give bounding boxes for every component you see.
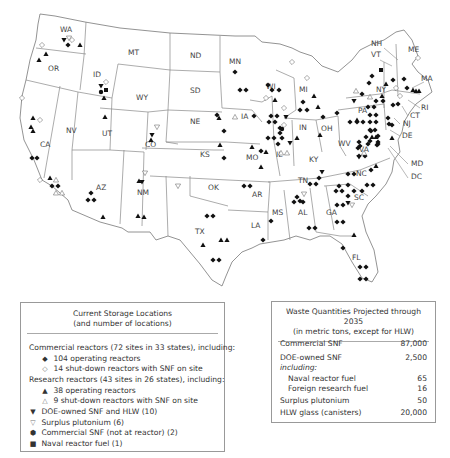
quantities-title: Waste Quantities Projected through 2035 … [278,302,429,342]
state-label-mi: MI [299,85,308,94]
state-label-ar: AR [252,190,262,199]
filled-down-triangle-icon: ▼ [27,407,39,417]
legend-item-commercial-snf: ⬢ Commercial SNF (not at reactor) (2) [27,428,178,438]
table-row: HLW glass (canisters) 20,000 [280,408,427,418]
filled-hexagon-icon: ⬢ [27,428,39,438]
state-label-mo: MO [246,153,258,162]
state-label-tn: TN [297,176,308,185]
state-label-az: AZ [96,183,106,192]
legend-item-research-shutdown: △ 9 shut-down reactors with SNF on site [39,396,198,406]
state-label-tx: TX [194,227,205,236]
state-label-ri: RI [421,103,428,112]
state-label-al: AL [298,208,308,217]
state-label-sc: SC [354,193,364,202]
state-label-ia: IA [241,112,249,121]
state-label-oh: OH [321,124,333,133]
state-label-mn: MN [229,57,241,66]
storage-locations-legend: Current Storage Locations (and number of… [20,302,225,452]
waste-quantities-table: Waste Quantities Projected through 2035 … [271,301,436,423]
table-row: Commercial SNF 87,000 [280,339,427,349]
state-label-nd: ND [190,51,202,60]
open-triangle-icon: △ [39,396,51,406]
state-label-nc: NC [356,169,367,178]
state-label-or: OR [48,64,59,73]
state-label-wv: WV [338,139,351,148]
state-label-ca: CA [40,140,51,149]
filled-diamond-icon: ◆ [39,354,51,364]
state-label-me: ME [408,45,419,54]
legend-item-doe: ▼ DOE-owned SNF and HLW (10) [27,407,157,417]
state-label-vt: VT [371,50,381,59]
state-label-mt: MT [128,48,139,57]
state-label-ct: CT [410,111,420,120]
state-label-ma: MA [421,74,433,83]
state-label-de: DE [402,131,413,140]
state-label-sd: SD [190,86,201,95]
state-label-wa: WA [60,25,73,34]
state-label-ut: UT [102,129,112,138]
legend-commercial-header: Commercial reactors (72 sites in 33 stat… [29,343,235,353]
state-label-ny: NY [376,85,387,94]
legend-research-header: Research reactors (43 sites in 26 states… [29,375,224,385]
table-row: Foreign research fuel 16 [280,384,427,394]
state-label-ga: GA [326,208,338,217]
table-row: Naval reactor fuel 65 [280,374,427,384]
state-label-id: ID [93,70,101,79]
open-down-triangle-icon: ▽ [27,418,39,428]
state-label-ky: KY [309,155,319,164]
state-label-wy: WY [136,93,148,102]
state-label-fl: FL [352,253,361,262]
state-label-ks: KS [200,150,210,159]
state-label-nj: NJ [403,119,411,128]
legend-title: Current Storage Locations (and number of… [27,303,218,334]
us-map: WA OR CA NV ID MT WY UT AZ CO NM ND SD N… [0,0,450,295]
state-label-ne: NE [190,117,201,126]
filled-square-icon: ■ [27,439,39,449]
table-row: Surplus plutonium 50 [280,396,427,406]
open-diamond-icon: ◇ [39,364,51,374]
state-label-ok: OK [208,183,220,192]
state-label-dc: DC [411,172,422,181]
legend-item-research-operating: ▲ 38 operating reactors [39,386,136,396]
state-label-nv: NV [66,126,78,135]
legend-item-naval: ■ Naval reactor fuel (1) [27,439,122,449]
state-label-nm: NM [137,188,149,197]
state-label-in: IN [299,123,307,132]
state-label-nh: NH [371,39,382,48]
state-label-md: MD [411,159,423,168]
legend-item-commercial-operating: ◆ 104 operating reactors [39,354,141,364]
filled-triangle-icon: ▲ [39,386,51,396]
legend-item-plutonium: ▽ Surplus plutonium (6) [27,418,124,428]
table-row: DOE-owned SNF 2,500 [280,353,427,363]
legend-item-commercial-shutdown: ◇ 14 shut-down reactors with SNF on site [39,364,203,374]
table-row: including: [280,363,427,373]
state-label-la: LA [251,221,261,230]
state-label-ms: MS [272,208,283,217]
